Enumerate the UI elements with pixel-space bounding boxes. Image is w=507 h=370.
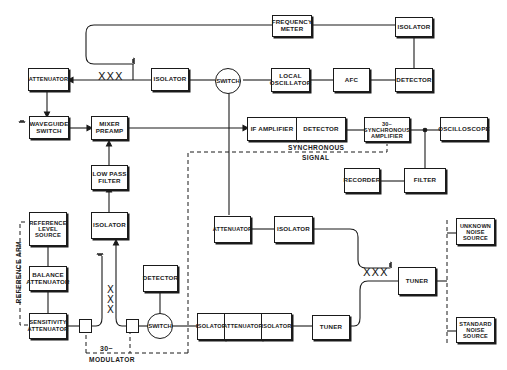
modulator-label: MODULATOR — [89, 356, 135, 363]
directional-coupler-left-label: X X X — [107, 285, 117, 315]
recorder-block: RECORDER — [344, 168, 380, 193]
directional-coupler-right-label: XXX — [363, 266, 389, 279]
isolator-mid-block: ISOLATOR — [274, 216, 313, 243]
directional-coupler-top-label: XXX — [98, 70, 124, 83]
low-pass-filter-block: LOW PASS FILTER — [91, 165, 128, 190]
signal-label: SIGNAL — [302, 154, 329, 161]
synchronous-amplifier-block: 30~ SYNCHRONOUS AMPLIFIER — [364, 117, 410, 142]
afc-block: AFC — [333, 68, 370, 92]
unknown-noise-source-block: UNKNOWN NOISE SOURCE — [456, 218, 495, 245]
isolator-bottom-1-block: ISOLATOR — [197, 313, 225, 340]
mixer-preamp-block: MIXER PREAMP — [91, 116, 128, 140]
attenuator-mid-block: ATTENUATOR — [214, 216, 251, 243]
detector-top-right-block: DETECTOR — [395, 68, 433, 92]
modulator-square-left — [79, 319, 92, 333]
isolator-top-right-block: ISOLATOR — [395, 17, 433, 37]
isolator-top-mid-block: ISOLATOR — [151, 68, 189, 91]
attenuator-top-left-block: ATTENUATOR — [28, 68, 69, 91]
if-amplifier-block: IF AMPLIFIER — [247, 117, 297, 141]
oscilloscope-block: OSCILLOSCOPE — [440, 117, 488, 141]
reference-arm-label: REFERENCE ARM — [15, 244, 22, 304]
modulator-frequency-label: 30~ — [100, 345, 113, 352]
synchronous-label: SYNCHRONOUS — [288, 144, 344, 151]
local-oscillator-block: LOCAL OSCILLATOR — [271, 68, 310, 92]
tuner-right-block: TUNER — [398, 267, 436, 295]
frequency-meter-block: FREQUENCY METER — [272, 15, 312, 37]
waveguide-switch-block: WAVEGUIDE SWITCH — [29, 116, 69, 139]
isolator-mid-left-block: ISOLATOR — [91, 212, 128, 239]
tuner-bottom-block: TUNER — [312, 315, 350, 340]
filter-block: FILTER — [404, 168, 446, 193]
sensitivity-attenuator-block: SENSITIVITY ATTENUATOR — [29, 313, 67, 339]
balance-attenuator-block: BALANCE ATTENUATOR — [29, 266, 67, 291]
detector-if-block: DETECTOR — [296, 117, 346, 141]
switch-bottom-circle: SWITCH — [147, 313, 173, 339]
switch-top-circle: SWITCH — [215, 68, 241, 94]
modulator-square-right — [126, 319, 139, 333]
standard-noise-source-block: STANDARD NOISE SOURCE — [456, 317, 495, 343]
detector-bottom-block: DETECTOR — [143, 265, 178, 292]
attenuator-bottom-block: ATTENUATOR — [224, 313, 262, 340]
reference-level-source-block: REFERENCE LEVEL SOURCE — [29, 212, 67, 246]
isolator-bottom-2-block: ISOLATOR — [261, 313, 292, 340]
